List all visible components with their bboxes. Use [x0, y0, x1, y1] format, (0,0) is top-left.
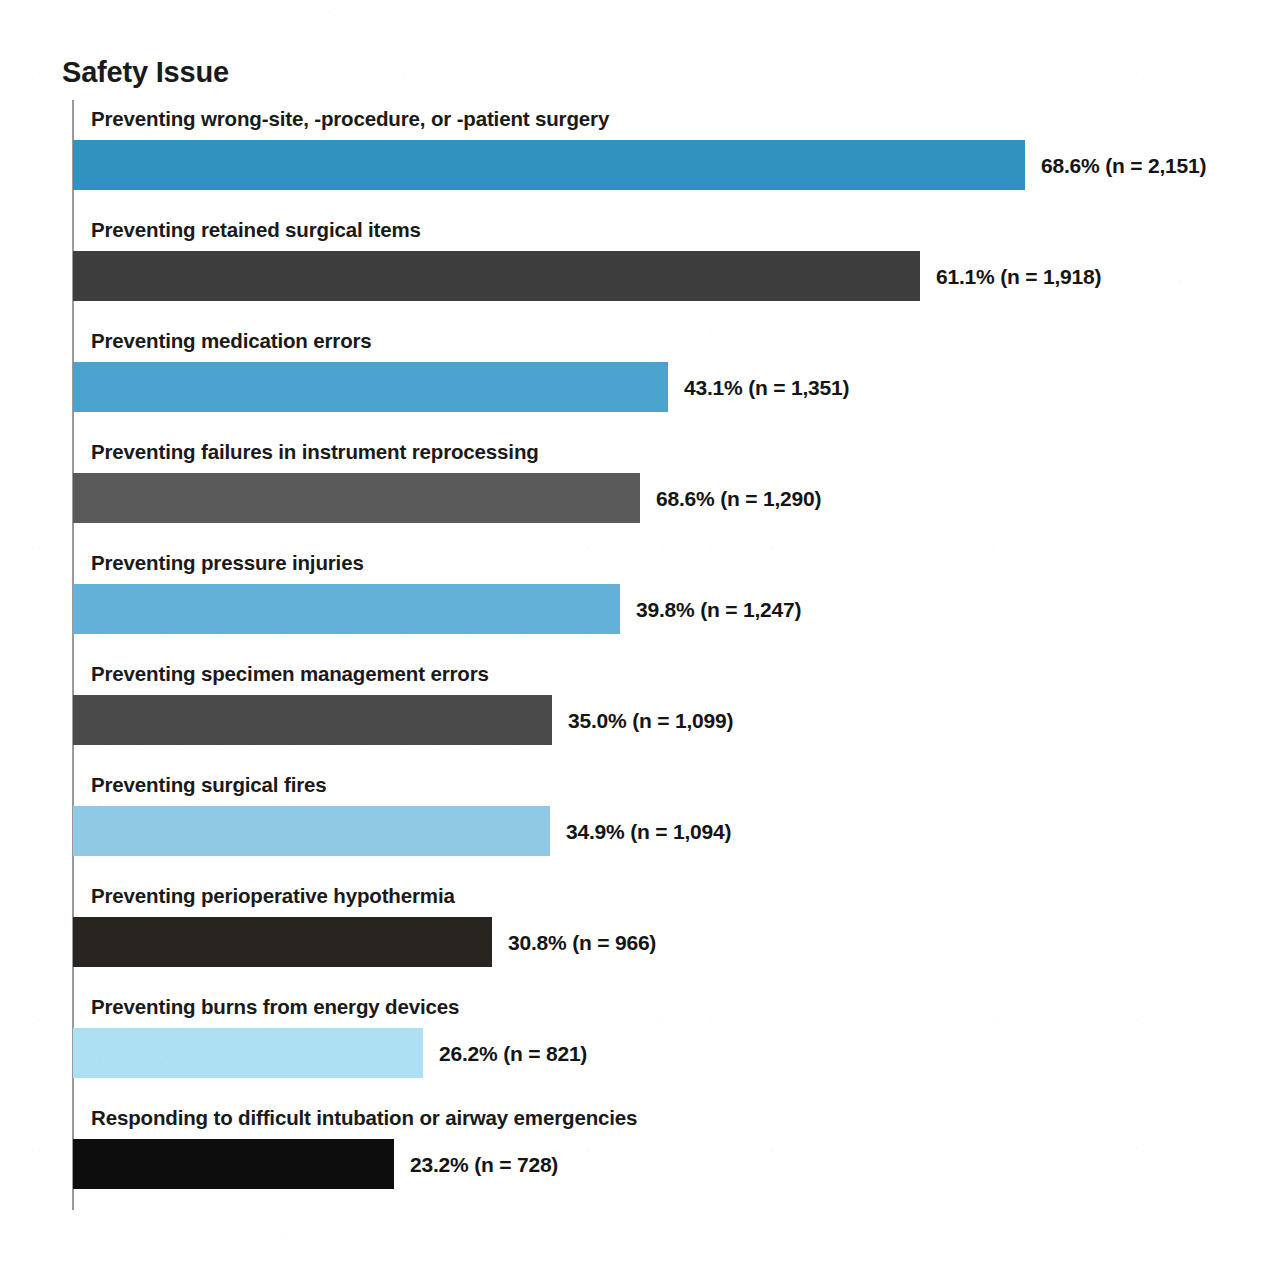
- bar-track: 35.0% (n = 1,099): [73, 695, 1252, 745]
- bar-track: 23.2% (n = 728): [73, 1139, 1252, 1189]
- bar-track: 68.6% (n = 1,290): [73, 473, 1252, 523]
- bar-track: 43.1% (n = 1,351): [73, 362, 1252, 412]
- bar-fill: [73, 806, 550, 856]
- bar-row: Preventing pressure injuries 39.8% (n = …: [62, 544, 1252, 655]
- bar-value-label: 23.2% (n = 728): [410, 1152, 558, 1177]
- bar-category-label: Preventing retained surgical items: [91, 219, 421, 242]
- bar-category-label: Preventing burns from energy devices: [91, 996, 459, 1019]
- bar-row: Preventing perioperative hypothermia 30.…: [62, 877, 1252, 988]
- bar-category-label: Preventing perioperative hypothermia: [91, 885, 455, 908]
- bar-fill: [73, 1139, 394, 1189]
- bar-value-label: 43.1% (n = 1,351): [684, 375, 849, 400]
- bar-track: 61.1% (n = 1,918): [73, 251, 1252, 301]
- bar-track: 30.8% (n = 966): [73, 917, 1252, 967]
- bar-value-label: 34.9% (n = 1,094): [566, 819, 731, 844]
- bar-category-label: Preventing wrong-site, -procedure, or -p…: [91, 108, 609, 131]
- bar-fill: [73, 695, 552, 745]
- bar-category-label: Preventing surgical fires: [91, 774, 327, 797]
- bar-fill: [73, 473, 640, 523]
- plot-area: Preventing wrong-site, -procedure, or -p…: [62, 100, 1252, 1220]
- bar-category-label: Preventing failures in instrument reproc…: [91, 441, 539, 464]
- bar-fill: [73, 140, 1025, 190]
- bar-track: 39.8% (n = 1,247): [73, 584, 1252, 634]
- bar-category-label: Preventing pressure injuries: [91, 552, 364, 575]
- bar-row: Preventing burns from energy devices 26.…: [62, 988, 1252, 1099]
- bar-chart: Safety Issue Preventing wrong-site, -pro…: [0, 0, 1280, 1271]
- bar-row: Preventing specimen management errors 35…: [62, 655, 1252, 766]
- bar-value-label: 35.0% (n = 1,099): [568, 708, 733, 733]
- bar-row: Preventing surgical fires 34.9% (n = 1,0…: [62, 766, 1252, 877]
- bar-fill: [73, 251, 920, 301]
- bar-row: Preventing medication errors 43.1% (n = …: [62, 322, 1252, 433]
- bar-row: Preventing wrong-site, -procedure, or -p…: [62, 100, 1252, 211]
- bar-fill: [73, 584, 620, 634]
- bar-track: 68.6% (n = 2,151): [73, 140, 1252, 190]
- bar-value-label: 39.8% (n = 1,247): [636, 597, 801, 622]
- bar-value-label: 30.8% (n = 966): [508, 930, 656, 955]
- bar-row: Preventing failures in instrument reproc…: [62, 433, 1252, 544]
- bar-category-label: Preventing medication errors: [91, 330, 372, 353]
- bar-value-label: 61.1% (n = 1,918): [936, 264, 1101, 289]
- chart-title: Safety Issue: [62, 58, 229, 87]
- bar-category-label: Responding to difficult intubation or ai…: [91, 1107, 637, 1130]
- bar-row: Responding to difficult intubation or ai…: [62, 1099, 1252, 1210]
- bar-fill: [73, 917, 492, 967]
- bar-track: 34.9% (n = 1,094): [73, 806, 1252, 856]
- bar-category-label: Preventing specimen management errors: [91, 663, 489, 686]
- bar-row: Preventing retained surgical items 61.1%…: [62, 211, 1252, 322]
- bar-track: 26.2% (n = 821): [73, 1028, 1252, 1078]
- bar-fill: [73, 362, 668, 412]
- bar-value-label: 26.2% (n = 821): [439, 1041, 587, 1066]
- bar-value-label: 68.6% (n = 2,151): [1041, 153, 1206, 178]
- bar-fill: [73, 1028, 423, 1078]
- bar-value-label: 68.6% (n = 1,290): [656, 486, 821, 511]
